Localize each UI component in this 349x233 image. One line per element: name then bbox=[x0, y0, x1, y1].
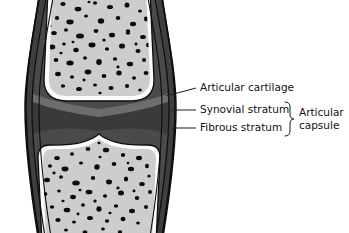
anatomy-figure: Articular cartilage Synovial stratum Fib… bbox=[0, 0, 349, 233]
label-fibrous-stratum: Fibrous stratum bbox=[200, 121, 282, 133]
label-articular-capsule-line1: Articular bbox=[299, 106, 344, 118]
lower-epiphysis bbox=[38, 134, 160, 233]
upper-bone-marrow bbox=[49, 0, 150, 96]
label-synovial-stratum: Synovial stratum bbox=[200, 103, 289, 115]
upper-epiphysis bbox=[44, 0, 155, 101]
joint-diagram-svg: Articular cartilage Synovial stratum Fib… bbox=[0, 0, 349, 233]
label-articular-capsule: Articular capsule bbox=[299, 106, 344, 131]
label-group: Articular cartilage Synovial stratum Fib… bbox=[200, 81, 294, 133]
label-articular-cartilage: Articular cartilage bbox=[200, 81, 294, 93]
joint-illustration bbox=[25, 0, 176, 233]
label-articular-capsule-line2: capsule bbox=[299, 119, 339, 131]
